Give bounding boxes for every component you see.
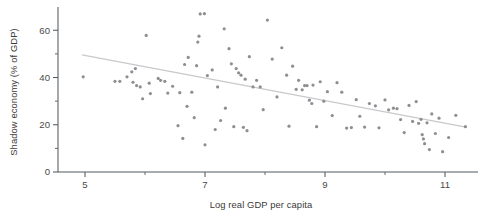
- data-point: [185, 105, 188, 108]
- data-point: [331, 114, 334, 117]
- data-point: [197, 35, 200, 38]
- data-point: [271, 57, 274, 60]
- data-point: [148, 82, 151, 85]
- data-point: [113, 80, 116, 83]
- data-point: [454, 114, 457, 117]
- data-point: [244, 78, 247, 81]
- data-point: [255, 79, 258, 82]
- data-point: [285, 74, 288, 77]
- data-point: [259, 85, 262, 88]
- data-point: [131, 81, 134, 84]
- data-point: [310, 102, 313, 105]
- data-point: [214, 128, 217, 131]
- data-point: [118, 80, 121, 83]
- data-point: [417, 122, 420, 125]
- data-point: [245, 129, 248, 132]
- data-point: [415, 100, 418, 103]
- y-axis-label: Shadow economy (% of GDP): [8, 28, 19, 156]
- y-tick-label: 60: [39, 25, 50, 36]
- data-point: [193, 116, 196, 119]
- x-tick-label: 9: [322, 179, 327, 190]
- data-point: [275, 95, 278, 98]
- data-point: [421, 133, 424, 136]
- data-point: [322, 100, 325, 103]
- data-point: [203, 143, 206, 146]
- data-point: [159, 79, 162, 82]
- data-point: [141, 97, 144, 100]
- data-point: [319, 80, 322, 83]
- data-point: [464, 125, 467, 128]
- data-point: [287, 125, 290, 128]
- data-point: [199, 12, 202, 15]
- data-point: [134, 67, 137, 70]
- data-point: [196, 40, 199, 43]
- data-point: [149, 92, 152, 95]
- data-point: [178, 91, 181, 94]
- data-point: [232, 125, 235, 128]
- data-point: [355, 98, 358, 101]
- data-point: [163, 80, 166, 83]
- data-point: [308, 99, 311, 102]
- data-point: [206, 74, 209, 77]
- data-point: [419, 118, 422, 121]
- data-point: [428, 148, 431, 151]
- y-tick-label: 20: [39, 119, 50, 130]
- data-point: [340, 91, 343, 94]
- data-point: [171, 85, 174, 88]
- data-point: [335, 81, 338, 84]
- data-point: [358, 115, 361, 118]
- data-point: [227, 47, 230, 50]
- x-tick-label: 7: [202, 179, 207, 190]
- data-point: [411, 120, 414, 123]
- data-point: [295, 88, 298, 91]
- data-point: [305, 84, 308, 87]
- data-point: [211, 68, 214, 71]
- chart-svg: 020406057911 Shadow economy (% of GDP) L…: [0, 0, 490, 221]
- data-point: [374, 104, 377, 107]
- data-point: [183, 63, 186, 66]
- data-point: [395, 107, 398, 110]
- data-point: [135, 84, 138, 87]
- plot-background: [0, 0, 490, 221]
- x-tick-label: 11: [440, 179, 450, 190]
- data-point: [176, 124, 179, 127]
- data-point: [139, 85, 142, 88]
- data-point: [280, 46, 283, 49]
- data-point: [350, 126, 353, 129]
- data-point: [230, 62, 233, 65]
- data-point: [166, 92, 169, 95]
- data-point: [181, 137, 184, 140]
- data-point: [125, 75, 128, 78]
- data-point: [301, 88, 304, 91]
- data-point: [434, 132, 437, 135]
- data-point: [447, 136, 450, 139]
- data-point: [224, 107, 227, 110]
- data-point: [219, 119, 222, 122]
- data-point: [315, 125, 318, 128]
- data-point: [203, 12, 206, 15]
- data-point: [407, 104, 410, 107]
- data-point: [82, 75, 85, 78]
- data-point: [251, 85, 254, 88]
- data-point: [377, 126, 380, 129]
- data-point: [266, 19, 269, 22]
- data-point: [237, 71, 240, 74]
- data-point: [242, 126, 245, 129]
- data-point: [216, 85, 219, 88]
- data-point: [291, 65, 294, 68]
- data-point: [235, 67, 238, 70]
- data-point: [363, 126, 366, 129]
- data-point: [187, 56, 190, 59]
- data-point: [326, 90, 329, 93]
- data-point: [403, 131, 406, 134]
- scatter-chart-figure: 020406057911 Shadow economy (% of GDP) L…: [0, 0, 490, 221]
- x-axis-label: Log real GDP per capita: [210, 199, 313, 210]
- data-point: [297, 79, 300, 82]
- y-tick-label: 0: [45, 166, 50, 177]
- data-point: [248, 55, 251, 58]
- data-point: [130, 70, 133, 73]
- data-point: [311, 83, 314, 86]
- data-point: [437, 117, 440, 120]
- x-tick-label: 5: [82, 179, 87, 190]
- data-point: [430, 112, 433, 115]
